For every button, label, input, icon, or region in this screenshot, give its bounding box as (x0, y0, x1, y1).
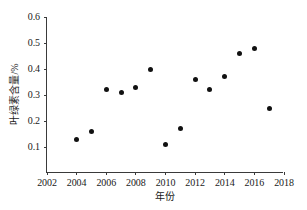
data-point (74, 137, 79, 142)
x-tick-label: 2018 (264, 176, 304, 189)
y-tick-label: 0.6 (0, 10, 40, 23)
data-point (163, 142, 168, 147)
y-tick-mark (44, 17, 47, 18)
plot-area: 0.10.20.30.40.50.6 200220042006200820102… (46, 17, 283, 173)
scatter-chart-figure: 0.10.20.30.40.50.6 200220042006200820102… (0, 0, 307, 210)
x-tick-mark (106, 172, 107, 175)
data-point (267, 106, 272, 111)
y-tick-mark (44, 147, 47, 148)
data-point (178, 126, 183, 131)
data-point (104, 87, 109, 92)
y-tick-mark (44, 95, 47, 96)
y-tick-mark (44, 43, 47, 44)
data-point (237, 51, 242, 56)
y-tick-mark (44, 69, 47, 70)
data-point (119, 90, 124, 95)
x-tick-mark (47, 172, 48, 175)
y-tick-mark (44, 121, 47, 122)
x-axis-title: 年份 (46, 190, 283, 203)
data-point (193, 77, 198, 82)
x-tick-mark (284, 172, 285, 175)
x-tick-mark (76, 172, 77, 175)
data-point (148, 67, 153, 72)
x-tick-mark (254, 172, 255, 175)
data-point (252, 46, 257, 51)
y-axis-title: 叶绿素含量/% (9, 24, 21, 164)
data-point (222, 74, 227, 79)
data-point (89, 129, 94, 134)
data-point (207, 87, 212, 92)
data-point (133, 85, 138, 90)
x-tick-mark (165, 172, 166, 175)
x-tick-mark (195, 172, 196, 175)
x-tick-mark (135, 172, 136, 175)
x-tick-mark (224, 172, 225, 175)
